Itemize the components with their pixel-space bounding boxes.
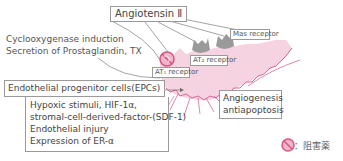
mas-receptor-box: Mas receptor	[230, 29, 270, 40]
cox-line2: Secretion of Prostaglandin, TX	[6, 46, 142, 56]
legend-label: ：阻害薬	[294, 139, 330, 152]
angiogenesis-box: Angiogenesis antiapoptosis	[219, 90, 282, 119]
cox-line1: Cyclooxygenase induction	[6, 34, 124, 44]
at2-receptor-label: AT₂ receptor	[193, 56, 236, 64]
angiogenesis-line2: antiapoptosis	[223, 105, 284, 115]
stimuli-line1: Hypoxic stimuli, HIF-1α,	[30, 100, 137, 110]
angiotensin-label: Angiotensin Ⅱ	[115, 8, 182, 19]
stimuli-line2: stromal-cell-derived-factor-(SDF-1)	[30, 112, 186, 122]
at2-receptor-shape	[192, 38, 210, 53]
at2-receptor-box: AT₂ receptor	[190, 55, 228, 66]
epc-box: Endothelial progenitor cells(EPCs)	[4, 80, 165, 97]
at1-receptor-label: AT₁ receptor	[155, 68, 198, 76]
inhibitor-icon-at1	[160, 52, 174, 66]
angiotensin-box: Angiotensin Ⅱ	[110, 6, 187, 22]
stimuli-line3: Endothelial injury	[30, 124, 109, 134]
prohibition-icon	[282, 139, 294, 151]
stimuli-line4: Expression of ER-α	[30, 136, 114, 146]
mas-receptor-label: Mas receptor	[233, 30, 279, 38]
epc-label: Endothelial progenitor cells(EPCs)	[8, 83, 160, 93]
stimuli-box: Hypoxic stimuli, HIF-1α, stromal-cell-de…	[25, 97, 169, 152]
at1-receptor-box: AT₁ receptor	[152, 67, 190, 78]
angiogenesis-line1: Angiogenesis	[223, 93, 283, 103]
